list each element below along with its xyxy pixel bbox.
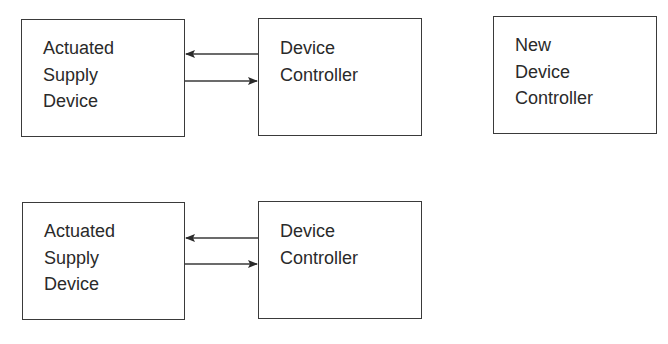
connector-arrows	[0, 0, 668, 344]
